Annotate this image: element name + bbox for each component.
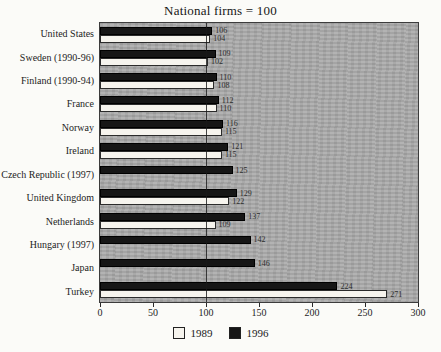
bar-1989 bbox=[100, 151, 222, 159]
bar-value-label: 115 bbox=[225, 128, 237, 136]
bar-value-label: 102 bbox=[211, 58, 223, 66]
legend-item-1996: 1996 bbox=[229, 327, 269, 339]
bar-1996 bbox=[100, 50, 216, 58]
category-label: Japan bbox=[0, 256, 99, 279]
chart-title: National firms = 100 bbox=[0, 3, 441, 19]
category-label: Turkey bbox=[0, 280, 99, 303]
x-axis: 050100150200250300 bbox=[99, 303, 421, 321]
category-label: Czech Republic (1997) bbox=[0, 163, 99, 186]
bar-1996 bbox=[100, 73, 217, 81]
chart-page: National firms = 100 United StatesSweden… bbox=[0, 0, 441, 352]
bar-1996 bbox=[100, 143, 228, 151]
bar-value-label: 110 bbox=[220, 105, 232, 113]
reference-line-100 bbox=[206, 23, 207, 302]
bar-value-label: 224 bbox=[340, 283, 352, 291]
bar-1989 bbox=[100, 81, 214, 89]
bar-value-label: 104 bbox=[213, 35, 225, 43]
x-tick-label: 300 bbox=[411, 307, 426, 318]
category-label: Finland (1990-94) bbox=[0, 69, 99, 92]
x-tick-label: 50 bbox=[148, 307, 158, 318]
bar-value-label: 142 bbox=[254, 236, 266, 244]
bar-value-label: 125 bbox=[236, 167, 248, 175]
bar-1989 bbox=[100, 128, 222, 136]
bar-1996 bbox=[100, 96, 219, 104]
legend-label: 1996 bbox=[247, 327, 269, 339]
bar-value-label: 122 bbox=[232, 198, 244, 206]
category-labels: United StatesSweden (1990-96)Finland (19… bbox=[0, 22, 99, 303]
bar-1989 bbox=[100, 221, 216, 229]
category-label: Hungary (1997) bbox=[0, 233, 99, 256]
category-label: Sweden (1990-96) bbox=[0, 45, 99, 68]
category-label: Norway bbox=[0, 116, 99, 139]
x-tick-label: 150 bbox=[252, 307, 267, 318]
bar-1996 bbox=[100, 120, 223, 128]
bar-value-label: 115 bbox=[225, 151, 237, 159]
bar-1989 bbox=[100, 104, 217, 112]
bar-1996 bbox=[100, 189, 237, 197]
bar-1989 bbox=[100, 197, 229, 205]
bar-value-label: 271 bbox=[390, 291, 402, 299]
bar-value-label: 108 bbox=[217, 82, 229, 90]
legend-swatch-icon bbox=[173, 327, 185, 339]
bar-1996 bbox=[100, 282, 337, 290]
bar-1996 bbox=[100, 236, 251, 244]
category-label: Ireland bbox=[0, 139, 99, 162]
bar-1996 bbox=[100, 166, 233, 174]
bar-value-label: 109 bbox=[219, 221, 231, 229]
chart-body: United StatesSweden (1990-96)Finland (19… bbox=[0, 22, 419, 303]
legend: 19891996 bbox=[0, 327, 441, 339]
x-tick-label: 100 bbox=[199, 307, 214, 318]
category-label: Netherlands bbox=[0, 209, 99, 232]
bar-1989 bbox=[100, 58, 208, 66]
category-label: United States bbox=[0, 22, 99, 45]
x-tick-label: 250 bbox=[358, 307, 373, 318]
bar-value-label: 137 bbox=[248, 213, 260, 221]
bar-1996 bbox=[100, 27, 212, 35]
plot-area: 1061041091021101081121101161151211151251… bbox=[99, 22, 419, 303]
x-tick-label: 0 bbox=[98, 307, 103, 318]
bar-1989 bbox=[100, 35, 210, 43]
legend-item-1989: 1989 bbox=[173, 327, 213, 339]
x-tick-label: 200 bbox=[305, 307, 320, 318]
bar-1996 bbox=[100, 259, 255, 267]
legend-swatch-icon bbox=[229, 327, 241, 339]
category-label: United Kingdom bbox=[0, 186, 99, 209]
legend-label: 1989 bbox=[191, 327, 213, 339]
bar-value-label: 146 bbox=[258, 260, 270, 268]
category-label: France bbox=[0, 92, 99, 115]
bar-1989 bbox=[100, 290, 387, 298]
